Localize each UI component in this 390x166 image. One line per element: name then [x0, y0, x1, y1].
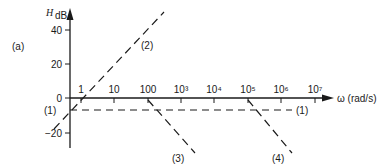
series-1-left-label: (1) — [44, 105, 56, 116]
series-4-label: (4) — [272, 153, 284, 164]
series-1-label: (1) — [296, 105, 308, 116]
figure-label: (a) — [12, 41, 24, 52]
y-axis-arrow-icon — [67, 8, 74, 20]
y-axis-label: H — [45, 7, 54, 18]
x-tick-label: 10³ — [174, 84, 189, 95]
x-ticks — [81, 98, 315, 103]
x-tick-label: 10 — [108, 84, 120, 95]
series-2-label: (2) — [141, 40, 153, 51]
series-3-line — [148, 100, 195, 153]
x-tick-label: 10⁶ — [273, 84, 288, 95]
x-tick-label: 10⁵ — [240, 84, 255, 95]
y-axis-label-subscript: dB — [55, 10, 68, 21]
bode-plot: 40 20 0 −20 H dB (a) 1 10 100 10³ 10⁴ 10… — [0, 0, 390, 166]
y-tick-label: −20 — [45, 128, 62, 139]
y-tick-label: 0 — [56, 93, 62, 104]
x-axis-arrow-icon — [322, 95, 334, 102]
y-tick-label: 40 — [51, 25, 63, 36]
series-4-line — [248, 100, 292, 153]
y-tick-label: 20 — [51, 59, 63, 70]
x-tick-label: 1 — [78, 84, 84, 95]
x-tick-label: 10⁷ — [308, 84, 323, 95]
series-3-label: (3) — [172, 153, 184, 164]
x-tick-label: 10⁴ — [206, 84, 221, 95]
x-axis-label: ω (rad/s) — [337, 93, 376, 104]
x-tick-label: 100 — [140, 84, 157, 95]
y-ticks — [65, 30, 70, 133]
